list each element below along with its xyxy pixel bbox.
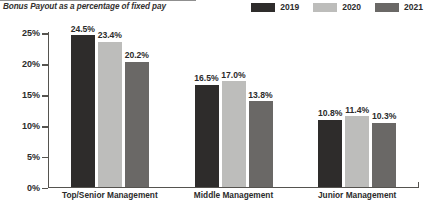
- bar-item[interactable]: 11.4%: [345, 32, 369, 187]
- legend-label-2019: 2019: [280, 3, 299, 12]
- bar-value-label: 16.5%: [194, 74, 218, 83]
- bar-item[interactable]: 16.5%: [195, 32, 219, 187]
- y-axis-label: 15%: [22, 90, 40, 100]
- bar-value-label: 17.0%: [221, 71, 245, 80]
- legend-label-2021: 2021: [404, 3, 423, 12]
- bar-value-label: 11.4%: [345, 106, 369, 115]
- bar-value-label: 13.8%: [248, 91, 272, 100]
- bar-item[interactable]: 24.5%: [71, 32, 95, 187]
- chart-page: Bonus Payout as a percentage of fixed pa…: [0, 0, 429, 215]
- bar-value-label: 24.5%: [71, 25, 95, 34]
- bar-rect[interactable]: [249, 101, 273, 186]
- bar-rect[interactable]: [345, 116, 369, 186]
- y-axis-label: 20%: [22, 59, 40, 69]
- top-rule-divider: [0, 0, 196, 1]
- bar-value-label: 10.3%: [372, 112, 396, 121]
- category-label: Top/Senior Management: [48, 190, 172, 200]
- legend-item-2021[interactable]: 2021: [375, 3, 423, 12]
- bar-group: 16.5%17.0%13.8%: [172, 32, 296, 187]
- bar-group: 10.8%11.4%10.3%: [295, 32, 419, 187]
- y-axis-label: 0%: [27, 183, 40, 193]
- y-axis-label: 25%: [22, 28, 40, 38]
- x-axis-line: [48, 187, 419, 188]
- legend-item-2020[interactable]: 2020: [313, 3, 361, 12]
- bar-item[interactable]: 10.3%: [372, 32, 396, 187]
- legend-item-2019[interactable]: 2019: [251, 3, 299, 12]
- bar-item[interactable]: 23.4%: [98, 32, 122, 187]
- plot-area: 25%20%15%10%5%0% 24.5%23.4%20.2%16.5%17.…: [48, 32, 419, 188]
- chart-legend: 201920202021: [251, 3, 423, 12]
- bar-rect[interactable]: [125, 62, 149, 187]
- bar-set: 10.8%11.4%10.3%: [295, 32, 419, 187]
- bar-rect[interactable]: [98, 42, 122, 187]
- bar-value-label: 10.8%: [318, 109, 342, 118]
- bar-item[interactable]: 17.0%: [222, 32, 246, 187]
- bar-item[interactable]: 10.8%: [318, 32, 342, 187]
- bar-group: 24.5%23.4%20.2%: [48, 32, 172, 187]
- y-axis-label: 10%: [22, 121, 40, 131]
- bar-rect[interactable]: [195, 85, 219, 187]
- bar-item[interactable]: 13.8%: [249, 32, 273, 187]
- bar-rect[interactable]: [372, 123, 396, 187]
- legend-swatch-2019: [251, 3, 275, 12]
- y-axis-label: 5%: [27, 152, 40, 162]
- bar-groups: 24.5%23.4%20.2%16.5%17.0%13.8%10.8%11.4%…: [48, 32, 419, 187]
- bar-set: 24.5%23.4%20.2%: [48, 32, 172, 187]
- bar-rect[interactable]: [318, 120, 342, 187]
- category-labels: Top/Senior ManagementMiddle ManagementJu…: [48, 190, 419, 200]
- chart-title: Bonus Payout as a percentage of fixed pa…: [3, 2, 166, 11]
- category-label: Junior Management: [295, 190, 419, 200]
- bar-value-label: 23.4%: [98, 31, 122, 40]
- bar-value-label: 20.2%: [125, 51, 149, 60]
- legend-swatch-2020: [313, 3, 337, 12]
- bar-item[interactable]: 20.2%: [125, 32, 149, 187]
- legend-swatch-2021: [375, 3, 399, 12]
- category-label: Middle Management: [172, 190, 296, 200]
- bar-rect[interactable]: [71, 35, 95, 187]
- bar-rect[interactable]: [222, 81, 246, 186]
- legend-label-2020: 2020: [342, 3, 361, 12]
- bar-set: 16.5%17.0%13.8%: [172, 32, 296, 187]
